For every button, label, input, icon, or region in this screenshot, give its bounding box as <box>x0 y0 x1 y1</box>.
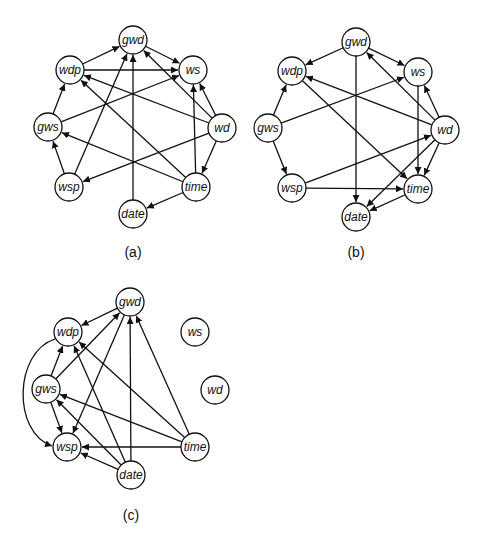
node-label: wd <box>214 121 230 135</box>
node-gws: gws <box>34 113 62 141</box>
edge-gws-to-ws <box>61 75 179 121</box>
node-gwd: gwd <box>342 28 370 56</box>
node-label: wdp <box>57 325 79 339</box>
node-label: gws <box>257 121 278 135</box>
node-label: wd <box>437 123 453 137</box>
panel-caption: (a) <box>124 244 141 260</box>
edge-gwd-to-ws <box>146 46 180 63</box>
edge-wd-to-ws <box>200 83 216 115</box>
edge-time-to-ws <box>193 85 195 173</box>
node-wsp: wsp <box>278 174 306 202</box>
edge-gws-to-ws <box>281 77 404 123</box>
node-label: gwd <box>119 295 141 309</box>
node-label: gws <box>37 120 58 134</box>
diagram-canvas: gwdwswdtimedatewspgwswdp(a) gwdwswdtimed… <box>0 0 479 548</box>
edge-wsp-to-gws <box>53 141 64 174</box>
node-gws: gws <box>254 114 282 142</box>
node-label: date <box>119 468 143 482</box>
node-label: gwd <box>345 35 367 49</box>
node-date: date <box>119 200 147 228</box>
node-label: wsp <box>56 440 78 454</box>
edge-time-to-date <box>147 193 183 209</box>
edge-gwd-to-wdp <box>82 308 118 325</box>
node-label: time <box>184 440 207 454</box>
edge-wd-to-time <box>202 141 216 173</box>
node-wdp: wdp <box>54 318 82 346</box>
node-wsp: wsp <box>53 433 81 461</box>
edge-gws-to-wsp <box>51 402 62 433</box>
edge-gws-to-wsp <box>273 141 286 174</box>
panel-caption: (c) <box>123 507 139 523</box>
node-date: date <box>117 461 145 489</box>
node-label: wdp <box>59 63 81 77</box>
node-gwd: gwd <box>119 26 147 54</box>
node-label: date <box>121 207 145 221</box>
edge-time-to-date <box>370 195 406 211</box>
node-ws: ws <box>404 58 432 86</box>
node-label: gwd <box>122 33 144 47</box>
node-label: wsp <box>58 180 80 194</box>
node-date: date <box>342 203 370 231</box>
node-time: time <box>404 175 432 203</box>
edge-date-to-wdp <box>74 346 125 462</box>
node-label: ws <box>188 325 203 339</box>
panel-caption: (b) <box>347 244 364 260</box>
node-time: time <box>182 173 210 201</box>
edge-gwd-to-wdp <box>306 48 344 65</box>
edge-wsp-to-time <box>306 188 403 189</box>
node-wd: wd <box>201 376 229 404</box>
node-ws: ws <box>181 318 209 346</box>
panel-b-graph: gwdwswdtimedatewspgwswdp(b) <box>254 28 459 260</box>
panel-c-graph: gwdwswdtimedatewspgwswdp(c) <box>23 288 229 523</box>
node-wsp: wsp <box>55 173 83 201</box>
edge-gwd-to-ws <box>369 48 405 65</box>
node-gwd: gwd <box>116 288 144 316</box>
node-label: ws <box>186 63 201 77</box>
node-label: ws <box>411 65 426 79</box>
edge-time-to-gws <box>62 133 183 182</box>
edge-wdp-to-gwd <box>83 46 120 64</box>
node-wd: wd <box>208 114 236 142</box>
node-time: time <box>181 433 209 461</box>
node-ws: ws <box>179 56 207 84</box>
edge-gws-to-wdp <box>51 346 63 376</box>
node-label: wsp <box>281 181 303 195</box>
node-wdp: wdp <box>278 57 306 85</box>
node-gws: gws <box>32 375 60 403</box>
node-label: time <box>407 182 430 196</box>
node-wdp: wdp <box>56 56 84 84</box>
node-wd: wd <box>431 116 459 144</box>
node-label: wdp <box>281 64 303 78</box>
node-label: wd <box>207 383 223 397</box>
edge-gws-to-wdp <box>53 84 65 114</box>
node-label: gws <box>35 382 56 396</box>
node-label: time <box>185 180 208 194</box>
node-label: date <box>344 210 368 224</box>
panel-a-graph: gwdwswdtimedatewspgwswdp(a) <box>34 26 236 260</box>
edge-gws-to-wdp <box>273 85 286 115</box>
